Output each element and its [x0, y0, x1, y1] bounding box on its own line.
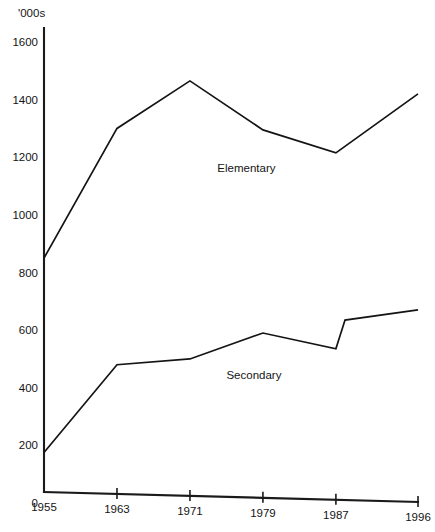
x-axis-line — [44, 492, 418, 502]
x-axis-tick-label: 1955 — [31, 501, 57, 513]
series-annotations: ElementarySecondary — [217, 162, 281, 381]
y-axis-title: '000s — [18, 7, 45, 19]
x-axis-tick-label: 1971 — [177, 505, 203, 517]
chart-series-group — [44, 81, 418, 453]
y-axis-tick-label: 800 — [19, 267, 38, 279]
y-axis-tick-label: 1200 — [12, 151, 38, 163]
y-axis-tick-label: 400 — [19, 382, 38, 394]
y-axis-tick-label: 1400 — [12, 94, 38, 106]
x-axis-tick-label: 1963 — [104, 503, 130, 515]
y-axis-tick-labels: 02004006008001000120014001600 — [12, 36, 38, 509]
line-chart: '000s 02004006008001000120014001600 1955… — [0, 0, 435, 532]
series-label-elementary: Elementary — [217, 162, 275, 174]
y-axis-tick-label: 600 — [19, 324, 38, 336]
y-axis-tick-label: 1600 — [12, 36, 38, 48]
y-axis-tick-label: 1000 — [12, 209, 38, 221]
x-axis-tick-label: 1987 — [323, 509, 349, 521]
x-axis-tick-label: 1979 — [250, 507, 276, 519]
series-line-secondary — [44, 310, 418, 453]
series-label-secondary: Secondary — [226, 369, 281, 381]
chart-container: '000s 02004006008001000120014001600 1955… — [0, 0, 435, 532]
x-axis-tick-label: 1996 — [405, 511, 431, 523]
chart-axes — [44, 28, 418, 502]
y-axis-tick-label: 200 — [19, 439, 38, 451]
